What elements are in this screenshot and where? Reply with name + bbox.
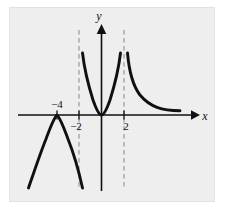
curve-group bbox=[29, 53, 181, 188]
x-axis-arrowhead bbox=[191, 110, 200, 120]
figure-root: y x −4 −2 2 bbox=[0, 0, 225, 211]
y-axis-label: y bbox=[95, 9, 102, 23]
tick-label-minus-2: −2 bbox=[70, 120, 82, 132]
x-axis-label: x bbox=[201, 109, 208, 123]
y-axis-arrowhead bbox=[97, 24, 107, 34]
tick-label-plus-2: 2 bbox=[123, 120, 129, 132]
curve-right-branch bbox=[128, 53, 181, 111]
axes-group bbox=[18, 24, 200, 191]
plot-frame: y x −4 −2 2 bbox=[9, 7, 215, 202]
tick-label-minus-4: −4 bbox=[51, 98, 63, 110]
graph-canvas: y x −4 −2 2 bbox=[10, 8, 214, 201]
